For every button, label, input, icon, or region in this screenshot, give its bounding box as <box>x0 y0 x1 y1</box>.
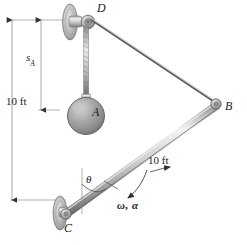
wall-plate-d <box>63 4 83 40</box>
omega-alpha-arrow <box>128 167 170 198</box>
mechanics-figure: D A B C sA 10 ft 10 ft θ ω, α <box>0 0 247 245</box>
cable-d-to-a <box>82 26 91 99</box>
label-point-a: A <box>92 106 99 118</box>
label-sa-subscript: A <box>30 59 35 68</box>
cable-d-to-b <box>92 19 215 102</box>
label-point-b: B <box>225 100 232 112</box>
label-bar-length-10ft: 10 ft <box>148 155 168 166</box>
dimension-extension-lines <box>10 20 70 200</box>
pin-joint-b <box>211 99 221 109</box>
label-distance-sa: sA <box>26 52 35 66</box>
label-omega-alpha: ω, α <box>117 200 139 211</box>
label-height-10ft: 10 ft <box>6 96 26 107</box>
label-point-d: D <box>97 2 106 14</box>
label-angle-theta: θ <box>86 174 91 185</box>
label-point-c: C <box>64 222 72 234</box>
